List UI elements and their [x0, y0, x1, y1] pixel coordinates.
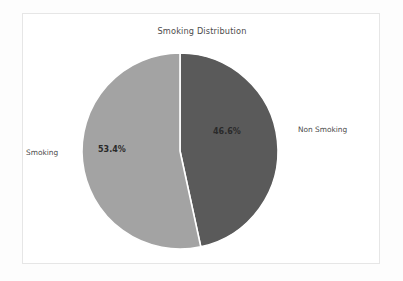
chart-card: Smoking Distribution 46.6% 53.4% Non Smo… [22, 13, 380, 264]
pie-label-non-smoking: Non Smoking [298, 125, 347, 134]
pie-value-non-smoking: 46.6% [213, 127, 241, 136]
figure-canvas: Smoking Distribution 46.6% 53.4% Non Smo… [0, 0, 403, 281]
pie-chart: 46.6% 53.4% Non Smoking Smoking [23, 14, 381, 265]
pie-value-smoking: 53.4% [98, 145, 126, 154]
pie-svg [23, 14, 381, 265]
pie-label-smoking: Smoking [26, 148, 58, 157]
